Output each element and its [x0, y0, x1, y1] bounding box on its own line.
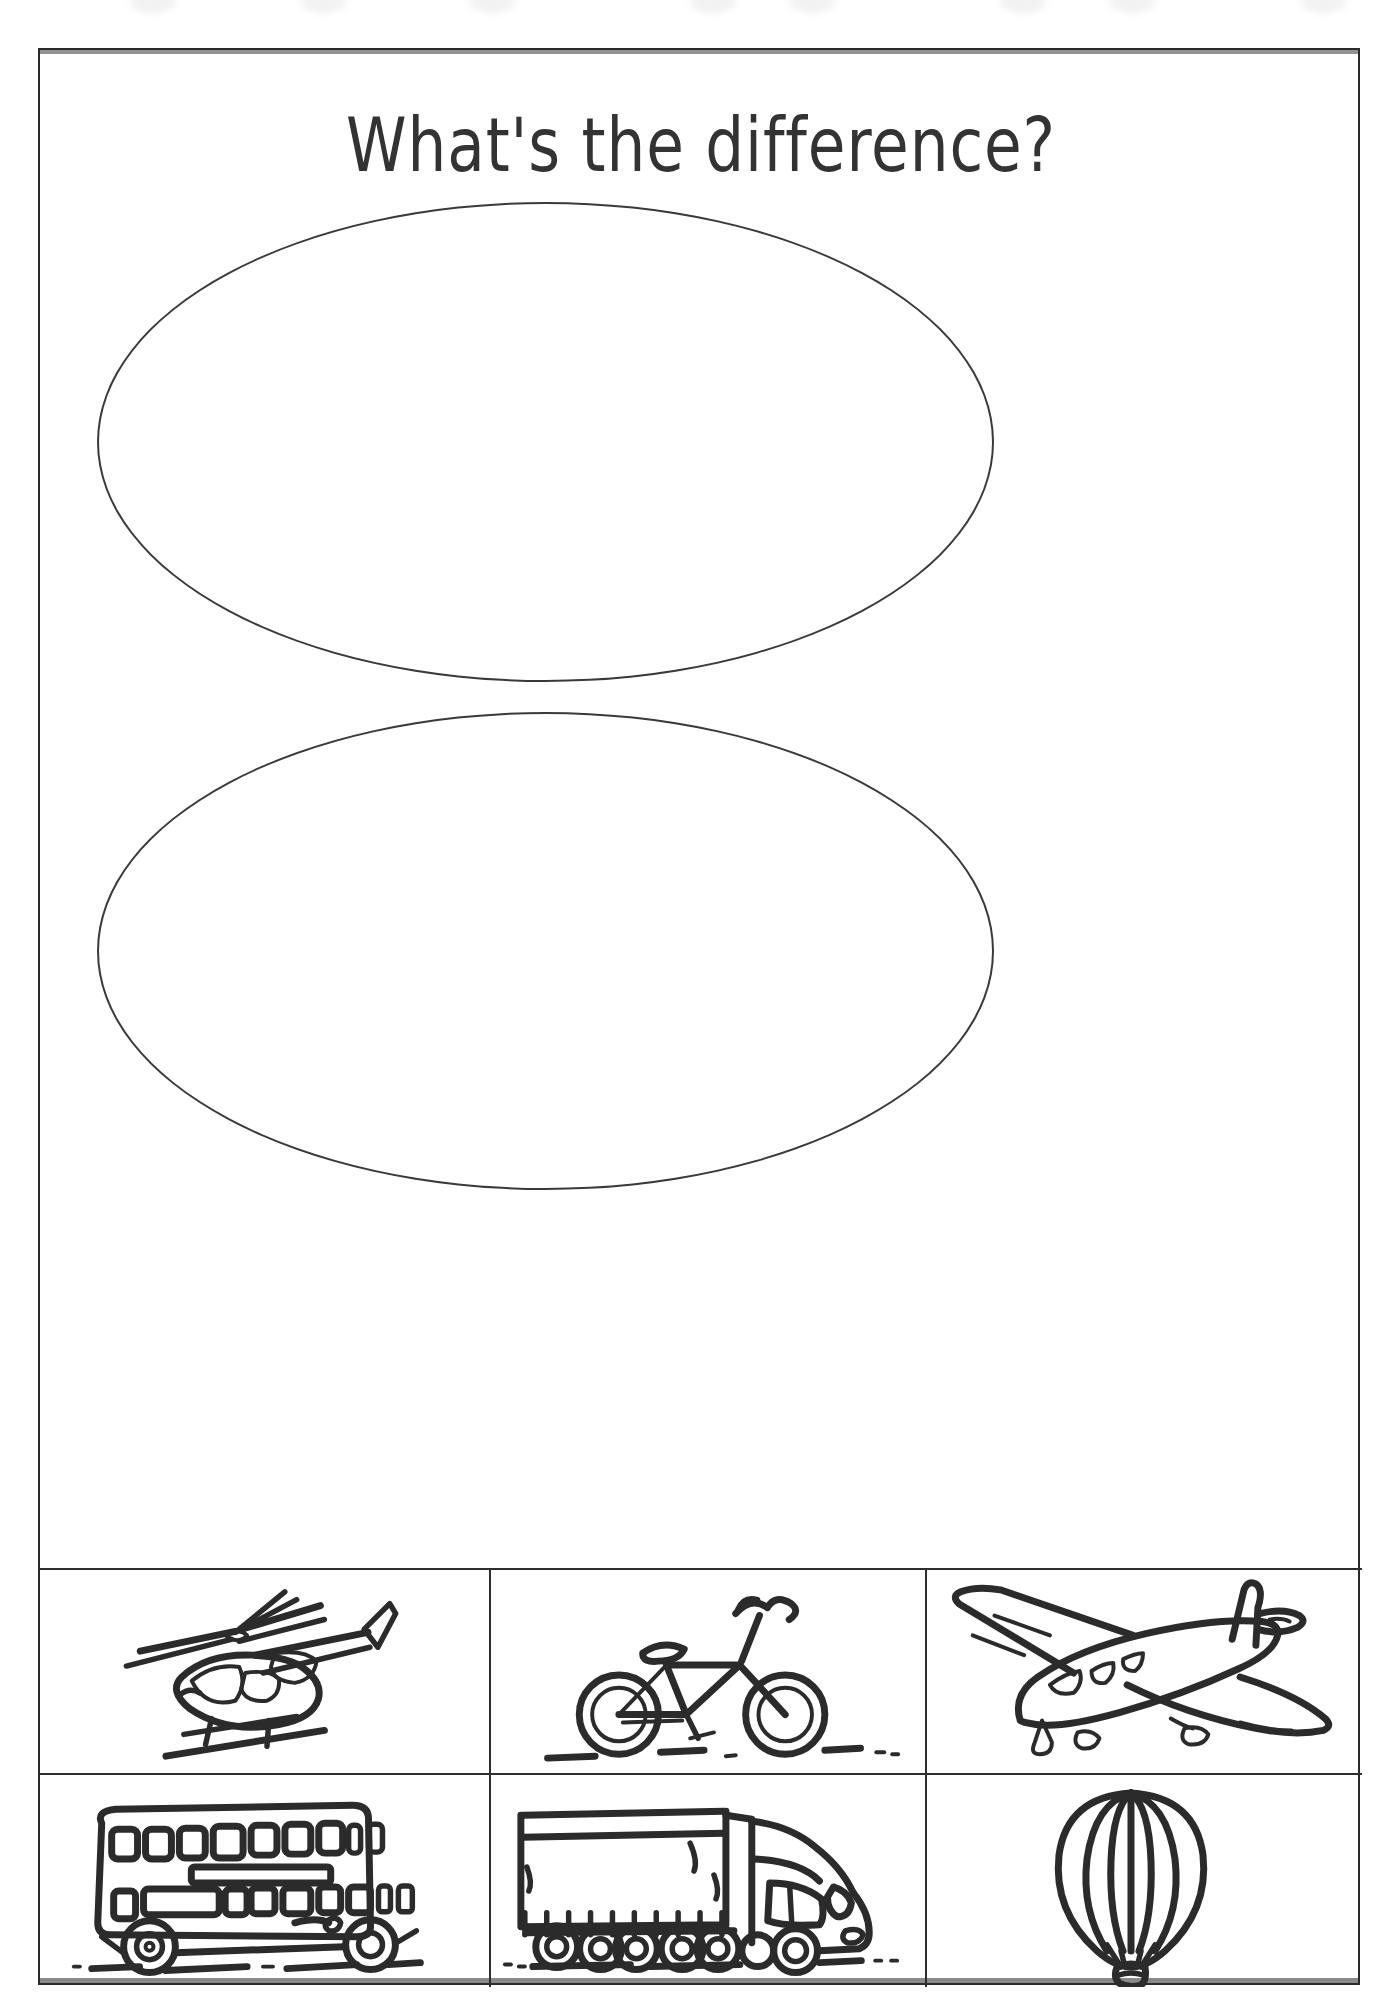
grid-cell-hot-air-balloon[interactable] — [927, 1775, 1362, 1987]
picture-grid — [40, 1568, 1362, 1985]
worksheet-page: What's the difference? — [0, 0, 1396, 2004]
frame-top-edge — [40, 50, 1358, 54]
helicopter-icon — [40, 1570, 489, 1773]
scan-artifact-smudges — [0, 0, 1396, 22]
hot-air-balloon-icon — [927, 1775, 1362, 1987]
grid-cell-aeroplane[interactable] — [927, 1570, 1362, 1775]
lorry-icon — [491, 1775, 925, 1987]
sorting-ellipse-top[interactable] — [97, 202, 994, 682]
worksheet-border: What's the difference? — [38, 48, 1360, 1985]
grid-cell-helicopter[interactable] — [40, 1570, 491, 1775]
aeroplane-icon — [927, 1570, 1362, 1773]
bicycle-icon — [491, 1570, 925, 1773]
grid-cell-lorry[interactable] — [491, 1775, 927, 1987]
sorting-ellipse-bottom[interactable] — [97, 712, 994, 1190]
grid-cell-bicycle[interactable] — [491, 1570, 927, 1775]
page-title: What's the difference? — [93, 108, 1309, 182]
grid-cell-double-decker-bus[interactable] — [40, 1775, 491, 1987]
footer-ghost-text — [56, 1988, 476, 2004]
double-decker-bus-icon — [40, 1775, 489, 1987]
